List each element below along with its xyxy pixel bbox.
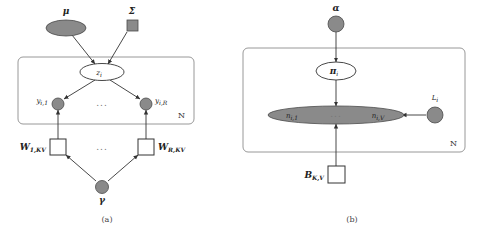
node-n-left-label: ni,1 (286, 112, 298, 121)
node-sigma (127, 20, 138, 31)
node-n-right-label: ni,V (372, 112, 385, 121)
node-b (328, 166, 345, 183)
node-w-left (50, 139, 66, 155)
node-mu (46, 20, 86, 36)
node-y-right (140, 98, 152, 110)
caption-a: (a) (101, 215, 112, 224)
node-sigma-label: Σ (128, 6, 136, 16)
node-z (80, 64, 124, 81)
edge-z-to-y-left (64, 80, 95, 99)
plate-b-label: N (450, 139, 457, 148)
ellipsis-y-nodes: ... (96, 98, 108, 108)
caption-b: (b) (346, 215, 357, 224)
panel-b: N α πi ni,1 ... ni,V (230, 0, 480, 229)
node-mu-label: μ (63, 6, 70, 16)
node-l-label: Li (431, 94, 439, 103)
node-y-right-label: yi,R (154, 97, 168, 106)
panel-a: N μ Σ zi (0, 0, 230, 229)
node-w-right-label: WR,KV (158, 142, 186, 153)
node-alpha (328, 16, 344, 32)
node-gamma (96, 181, 109, 194)
plate-a-label: N (178, 111, 185, 120)
node-gamma-label: γ (99, 195, 106, 205)
node-y-left-label: yi,1 (35, 97, 48, 106)
node-alpha-label: α (333, 3, 340, 13)
ellipsis-w-nodes: ... (96, 142, 108, 152)
node-z-label: zi (95, 69, 102, 78)
edge-gamma-to-w-left (66, 155, 96, 181)
edge-gamma-to-w-right (108, 155, 138, 181)
ellipsis-n-vector: ... (330, 109, 342, 119)
edge-sigma-to-z (108, 32, 127, 64)
node-y-left (52, 98, 64, 110)
edge-mu-to-z (72, 35, 95, 64)
node-b-label: BK,V (303, 170, 325, 181)
node-w-left-label: W1,KV (20, 142, 48, 153)
figure-root: N μ Σ zi (0, 0, 480, 229)
node-l (427, 107, 443, 123)
edge-z-to-y-right (110, 80, 140, 99)
node-w-right (138, 139, 154, 155)
